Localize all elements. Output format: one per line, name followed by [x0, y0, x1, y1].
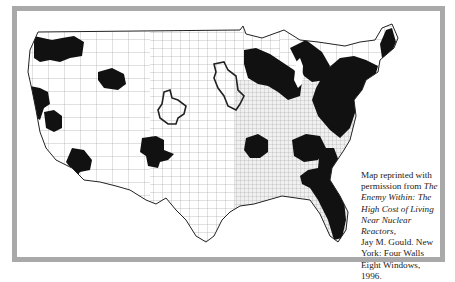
caption-line: Map reprinted with — [361, 170, 432, 180]
book-title: Enemy Within: The — [361, 192, 431, 202]
map-credit-caption: Map reprinted with permission from The E… — [361, 170, 443, 282]
caption-publisher: Eight Windows, 1996. — [361, 260, 420, 281]
caption-publisher: York: Four Walls — [361, 248, 424, 258]
caption-author: Jay M. Gould. New — [361, 237, 433, 247]
book-title: High Cost of Living — [361, 204, 434, 214]
caption-line: permission from — [361, 181, 424, 191]
book-title: Near Nuclear Reactors, — [361, 215, 411, 236]
book-title: The — [424, 181, 438, 191]
